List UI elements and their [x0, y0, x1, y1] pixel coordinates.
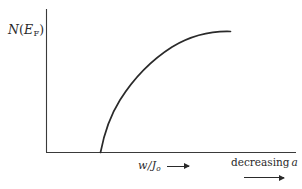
- figure-container: N(EF) w/Jo decreasinga: [0, 0, 302, 189]
- y-axis-label-name: N: [8, 22, 19, 37]
- decreasing-annotation-text: decreasinga: [231, 157, 298, 168]
- decreasing-right-arrow-icon: [244, 177, 284, 178]
- decreasing-arrow-wrap: [231, 172, 298, 183]
- x-axis-label-expression: w/Jo: [138, 160, 161, 173]
- data-curve: [101, 31, 231, 152]
- x-axis-label: w/Jo: [138, 160, 189, 173]
- x-axis-label-numerator: w: [138, 159, 147, 172]
- decreasing-annotation-word: decreasing: [231, 156, 290, 168]
- y-axis-label-variable: E: [24, 22, 33, 37]
- y-axis-label: N(EF): [8, 24, 44, 37]
- decreasing-annotation-variable: a: [290, 156, 298, 168]
- y-axis-label-close-paren: ): [39, 22, 44, 37]
- decreasing-annotation: decreasinga: [231, 157, 298, 182]
- x-axis-right-arrow-icon: [167, 166, 189, 167]
- x-axis-label-subscript: o: [156, 164, 160, 173]
